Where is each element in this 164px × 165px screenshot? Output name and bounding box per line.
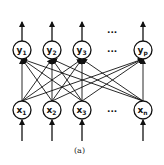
neural-network-diagram: y1y2y3yp x1x2x3xn ... ... ... (a) [0, 0, 164, 165]
input-layer: x1x2x3xn [13, 101, 152, 119]
input-node-3: x3 [73, 101, 91, 119]
input-node-n: xn [134, 101, 152, 119]
output-arrows [22, 22, 143, 41]
input-ellipsis: ... [107, 104, 117, 114]
output-node-1: y1 [13, 41, 31, 59]
input-arrows [22, 120, 143, 141]
input-node-1: x1 [13, 101, 31, 119]
output-node-p: yp [134, 41, 152, 59]
output-ellipsis: ... [107, 44, 117, 54]
output-node-2: y2 [43, 41, 61, 59]
figure-caption: (a) [74, 146, 85, 155]
output-node-3: y3 [73, 41, 91, 59]
connection-edges [22, 59, 143, 101]
output-ellipsis-top: ... [107, 25, 117, 35]
output-layer: y1y2y3yp [13, 41, 152, 59]
input-node-2: x2 [43, 101, 61, 119]
